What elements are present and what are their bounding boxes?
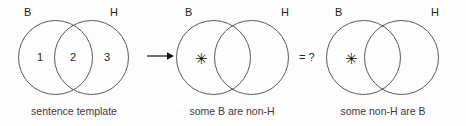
circle-set-h [364, 20, 439, 95]
venn-graphic: B H ✳ [170, 0, 294, 100]
set-label-h: H [281, 7, 289, 18]
panel-caption: some B are non-H [170, 105, 294, 117]
venn-panel-some-b-are-non-h: B H ✳ some B are non-H [170, 0, 294, 126]
region-label-right-only: 3 [101, 52, 113, 63]
region-label-left-only: 1 [34, 52, 46, 63]
set-label-b: B [24, 7, 31, 18]
circle-set-h [54, 20, 129, 95]
set-label-h: H [110, 7, 118, 18]
set-label-b: B [335, 7, 342, 18]
region-label-intersection: 2 [67, 52, 79, 63]
venn-diagram-figure: B H 1 2 3 sentence template B H ✳ some B… [0, 0, 466, 126]
star-marker-left-only: ✳ [345, 54, 358, 64]
panel-caption: some non-H are B [320, 105, 446, 117]
connector-equals-question: = ? [299, 52, 315, 63]
panel-caption: sentence template [0, 105, 148, 117]
venn-graphic: B H 1 2 3 [0, 0, 148, 100]
venn-panel-sentence-template: B H 1 2 3 sentence template [0, 0, 148, 126]
venn-panel-some-non-h-are-b: B H ✳ some non-H are B [320, 0, 446, 126]
venn-graphic: B H ✳ [320, 0, 446, 100]
star-marker-left-only: ✳ [195, 54, 208, 64]
set-label-h: H [431, 7, 439, 18]
circle-set-h [214, 20, 289, 95]
set-label-b: B [185, 7, 192, 18]
